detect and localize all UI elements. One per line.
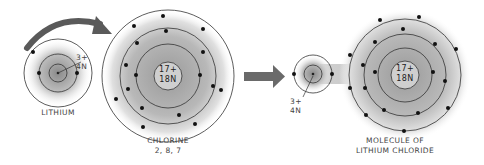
molecule-lithium-neutron-label: 4N [290, 106, 301, 116]
molecule-label-line2: LITHIUM CHLORIDE [345, 146, 445, 156]
chlorine-config-label: 2, 8, 7 [138, 146, 198, 156]
chlorine-neutron-label: 18N [155, 75, 181, 85]
electron [31, 50, 35, 54]
lithium-atom [24, 39, 92, 107]
molecule-chlorine-neutron-label: 18N [392, 74, 418, 84]
reaction-arrow [244, 65, 285, 88]
molecule-chlorine-charge-label: 17+ [392, 64, 418, 74]
lithium-label: LITHIUM [30, 108, 86, 118]
molecule-label-line1: MOLECULE OF [345, 136, 445, 146]
chlorine-charge-label: 17+ [155, 65, 181, 75]
chlorine-label: CHLORINE [138, 136, 198, 146]
lithium-neutron-label: 4N [76, 62, 87, 72]
electron [37, 71, 41, 75]
